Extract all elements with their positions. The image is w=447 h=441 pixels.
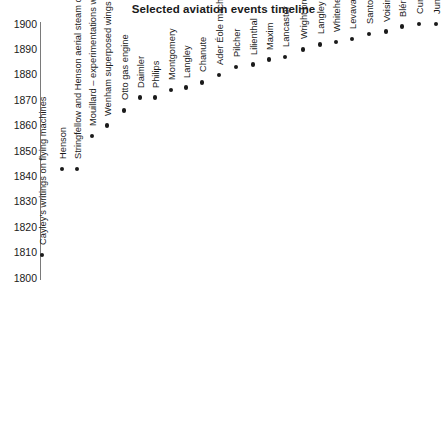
event-label: Levavasseur	[349, 0, 358, 29]
event-label: Pilcher	[233, 29, 242, 57]
y-axis-tick: 1830	[0, 196, 37, 207]
event-dot-marker[interactable]	[200, 80, 204, 84]
event-dot-marker[interactable]	[234, 65, 238, 69]
event-label: Lilienthal	[250, 18, 259, 55]
y-axis-tick-label: 1800	[3, 273, 37, 284]
event-dot-marker[interactable]	[334, 40, 338, 44]
event-dot-marker[interactable]	[105, 123, 109, 127]
event-label: Cayley's writings on flying machines	[39, 97, 48, 246]
event-label: Otto gas engine	[121, 35, 130, 101]
y-axis-tick-label: 1850	[3, 146, 37, 157]
event-dot-marker[interactable]	[40, 253, 44, 257]
event-label: Santos Dumont	[366, 0, 375, 24]
y-axis-tick-label: 1870	[3, 95, 37, 106]
event-dot-marker[interactable]	[350, 37, 354, 41]
event-dot-marker[interactable]	[169, 88, 173, 92]
event-label: Curtis AEA flights	[416, 0, 425, 14]
event-label: Lancaster	[282, 6, 291, 47]
event-dot-marker[interactable]	[122, 108, 126, 112]
event-label: Maxim	[266, 22, 275, 49]
y-axis-tick-label: 1810	[3, 247, 37, 258]
y-axis-tick: 1840	[0, 171, 37, 182]
event-label: Henson	[59, 127, 68, 159]
event-label: Stringfellow and Henson aerial steam car…	[74, 0, 83, 159]
y-axis-tick-label: 1840	[3, 171, 37, 182]
event-dot-marker[interactable]	[217, 73, 221, 77]
event-dot-marker[interactable]	[318, 42, 322, 46]
event-label: Langley	[183, 45, 192, 78]
event-dot-marker[interactable]	[283, 55, 287, 59]
y-axis-tick: 1800	[0, 273, 37, 284]
event-dot-marker[interactable]	[267, 57, 271, 61]
event-dot-marker[interactable]	[417, 22, 421, 26]
event-dot-marker[interactable]	[184, 85, 188, 89]
y-axis-tick: 1820	[0, 222, 37, 233]
y-axis-tick-label: 1820	[3, 222, 37, 233]
event-label: Blériot Channel flight	[399, 0, 408, 17]
event-dot-marker[interactable]	[400, 24, 404, 28]
event-label: Junkers	[433, 0, 442, 14]
event-label: Langley	[317, 2, 326, 35]
plot-area: 1900189018801870186018501840183018201810…	[0, 0, 447, 441]
event-label: Chanute	[199, 37, 208, 72]
y-axis-tick-label: 1880	[3, 69, 37, 80]
event-label: Wenham superposed wings	[104, 1, 113, 116]
event-label: Whitehead	[333, 0, 342, 32]
aviation-timeline-chart: Selected aviation events timeline 190018…	[0, 0, 447, 441]
event-dot-marker[interactable]	[90, 134, 94, 138]
event-dot-marker[interactable]	[384, 29, 388, 33]
event-label: Daimler	[137, 56, 146, 88]
event-dot-marker[interactable]	[153, 95, 157, 99]
y-axis-tick: 1870	[0, 95, 37, 106]
y-axis-tick: 1810	[0, 247, 37, 258]
y-axis-tick: 1860	[0, 120, 37, 131]
y-axis-tick: 1850	[0, 146, 37, 157]
y-axis-tick-label: 1860	[3, 120, 37, 131]
event-dot-marker[interactable]	[434, 22, 438, 26]
event-dot-marker[interactable]	[138, 95, 142, 99]
y-axis-tick: 1900	[0, 19, 37, 30]
y-axis-tick-label: 1890	[3, 44, 37, 55]
event-label: Wright brothers	[300, 0, 309, 39]
event-dot-marker[interactable]	[367, 32, 371, 36]
y-axis-tick-label: 1830	[3, 196, 37, 207]
event-label: Mouillard – experimentations with glider…	[89, 0, 98, 126]
event-label: Montgomery	[168, 28, 177, 80]
y-axis-tick-label: 1900	[3, 19, 37, 30]
event-label: Philips	[152, 60, 161, 87]
event-dot-marker[interactable]	[301, 47, 305, 51]
y-axis-tick: 1880	[0, 69, 37, 80]
event-dot-marker[interactable]	[251, 62, 255, 66]
y-axis-tick: 1890	[0, 44, 37, 55]
event-dot-marker[interactable]	[75, 167, 79, 171]
event-label: Ader Éole machine	[216, 0, 225, 65]
event-dot-marker[interactable]	[60, 167, 64, 171]
event-label: Voisin	[383, 0, 392, 22]
